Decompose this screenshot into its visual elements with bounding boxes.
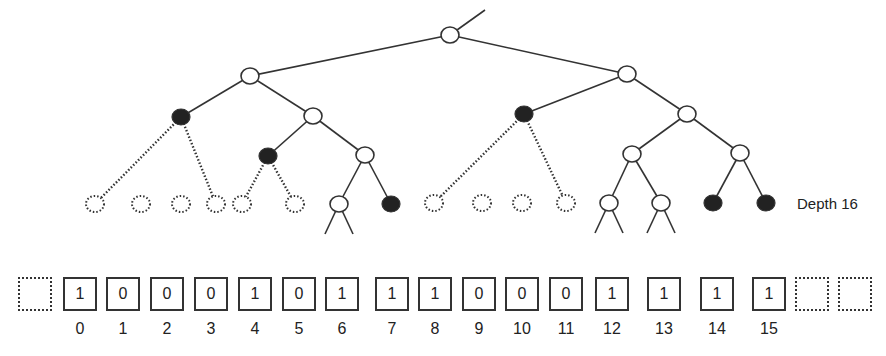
cell-value: 1 xyxy=(338,285,347,303)
absent-node xyxy=(207,196,225,212)
tree-edge xyxy=(250,76,313,116)
absent-node xyxy=(132,196,150,212)
cell-index: 2 xyxy=(150,320,184,338)
tree-edge xyxy=(181,117,216,204)
cell-index: 14 xyxy=(700,320,734,338)
open-node xyxy=(652,195,670,211)
tree-edge xyxy=(250,35,450,76)
tree-edge xyxy=(95,117,181,204)
cell-index: 8 xyxy=(418,320,452,338)
absent-node xyxy=(513,195,531,211)
cell-value: 1 xyxy=(660,285,669,303)
tree-edge xyxy=(524,74,627,114)
absent-node xyxy=(233,196,251,212)
open-node xyxy=(330,196,348,212)
array-cell: 0 xyxy=(549,277,583,311)
absent-node xyxy=(172,196,190,212)
open-node xyxy=(678,106,696,122)
filled-node xyxy=(704,195,722,211)
array-cell: 0 xyxy=(505,277,539,311)
absent-node xyxy=(286,196,304,212)
filled-node xyxy=(259,148,277,164)
tree-edge xyxy=(181,76,250,117)
filled-node xyxy=(515,106,533,122)
cell-index: 13 xyxy=(647,320,681,338)
cell-value: 0 xyxy=(295,285,304,303)
array-cell: 1 xyxy=(752,277,786,311)
cell-index: 4 xyxy=(238,320,272,338)
cell-value: 1 xyxy=(431,285,440,303)
empty-array-cell xyxy=(18,277,52,311)
open-node xyxy=(623,146,641,162)
tree-edge xyxy=(687,114,740,153)
tree-edge xyxy=(450,35,627,74)
cell-value: 1 xyxy=(388,285,397,303)
absent-node xyxy=(557,195,575,211)
cell-value: 0 xyxy=(475,285,484,303)
tree-edge xyxy=(524,114,566,203)
open-node xyxy=(600,195,618,211)
array-cell: 1 xyxy=(700,277,734,311)
cell-index: 1 xyxy=(106,320,140,338)
array-cell: 1 xyxy=(238,277,272,311)
array-cell: 0 xyxy=(462,277,496,311)
cell-index: 10 xyxy=(505,320,539,338)
cell-index: 6 xyxy=(325,320,359,338)
array-cell: 0 xyxy=(194,277,228,311)
filled-node xyxy=(757,195,775,211)
tree-edge xyxy=(627,74,687,114)
array-cell: 0 xyxy=(150,277,184,311)
array-cell: 1 xyxy=(647,277,681,311)
absent-node xyxy=(473,195,491,211)
array-cell: 0 xyxy=(106,277,140,311)
tree-edge xyxy=(434,114,524,203)
absent-node xyxy=(86,196,104,212)
cell-value: 1 xyxy=(608,285,617,303)
cell-index: 7 xyxy=(375,320,409,338)
open-node xyxy=(241,68,259,84)
cell-value: 0 xyxy=(518,285,527,303)
cell-value: 1 xyxy=(251,285,260,303)
open-node xyxy=(731,145,749,161)
depth-label: Depth 16 xyxy=(797,195,858,212)
array-cell: 1 xyxy=(595,277,629,311)
cell-index: 9 xyxy=(462,320,496,338)
cell-value: 1 xyxy=(765,285,774,303)
open-node xyxy=(356,147,374,163)
tree-edge xyxy=(313,116,365,155)
filled-node xyxy=(172,109,190,125)
cell-value: 0 xyxy=(207,285,216,303)
cell-value: 0 xyxy=(119,285,128,303)
open-node xyxy=(441,27,459,43)
cell-value: 0 xyxy=(163,285,172,303)
cell-index: 12 xyxy=(595,320,629,338)
array-cell: 1 xyxy=(418,277,452,311)
empty-array-cell xyxy=(838,277,872,311)
cell-value: 1 xyxy=(76,285,85,303)
open-node xyxy=(304,108,322,124)
cell-index: 11 xyxy=(549,320,583,338)
cell-value: 1 xyxy=(713,285,722,303)
empty-array-cell xyxy=(795,277,829,311)
array-cell: 1 xyxy=(63,277,97,311)
filled-node xyxy=(382,196,400,212)
cell-index: 5 xyxy=(282,320,316,338)
absent-node xyxy=(425,195,443,211)
array-cell: 0 xyxy=(282,277,316,311)
array-cell: 1 xyxy=(375,277,409,311)
tree-nodes xyxy=(86,27,775,212)
cell-index: 3 xyxy=(194,320,228,338)
array-cell: 1 xyxy=(325,277,359,311)
open-node xyxy=(618,66,636,82)
cell-index: 15 xyxy=(752,320,786,338)
cell-value: 0 xyxy=(562,285,571,303)
tree-edge xyxy=(632,114,687,154)
cell-index: 0 xyxy=(63,320,97,338)
